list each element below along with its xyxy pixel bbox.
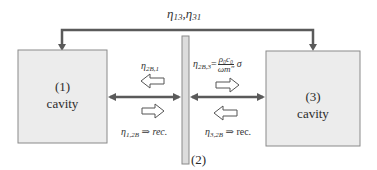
- coupling-line-right: [190, 93, 265, 101]
- cavity-3-name: cavity: [266, 105, 360, 122]
- hollow-arrow-right-upper-icon: [216, 78, 239, 92]
- top-coupling-label: η13,η31: [167, 7, 201, 22]
- cavity-1-number: (1): [18, 78, 107, 95]
- hollow-arrow-left-upper-icon: [141, 74, 164, 88]
- cavity-3-number: (3): [266, 88, 360, 105]
- hollow-arrow-left-lower-icon: [214, 106, 237, 120]
- eta-12b-label: η1,2B ⇒ rec.: [121, 127, 167, 139]
- arrow-down-right-icon: [309, 44, 317, 51]
- eta-2b1-label: η2B,1: [141, 61, 159, 73]
- coupling-line-left: [108, 93, 181, 101]
- eta-2b3-formula: η2B,3=ρ₀c₀ωm″ σ: [193, 55, 242, 74]
- cavity-1-label: (1) cavity: [18, 78, 107, 112]
- eta-32b-label: η3,2B ⇒ rec.: [205, 127, 251, 139]
- partition-label: (2): [191, 153, 206, 166]
- cavity-1-name: cavity: [18, 95, 107, 112]
- partition-panel: [182, 36, 189, 164]
- hollow-arrow-right-lower-icon: [142, 104, 164, 118]
- cavity-3-label: (3) cavity: [266, 88, 360, 122]
